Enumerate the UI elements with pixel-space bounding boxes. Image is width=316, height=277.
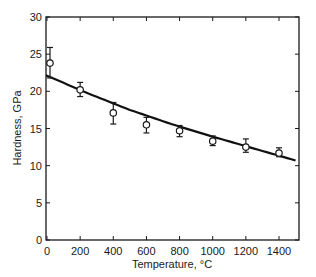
data-point: [47, 47, 53, 77]
data-point: [110, 102, 116, 124]
x-tick-label: 400: [104, 245, 122, 257]
y-tick-label: 15: [30, 123, 42, 135]
y-tick-label: 0: [36, 234, 42, 246]
x-tick-label: 800: [170, 245, 188, 257]
data-point: [143, 117, 149, 133]
data-point: [243, 139, 249, 152]
x-tick-label: 600: [137, 245, 155, 257]
open-circle-marker: [110, 110, 116, 116]
x-tick-label: 200: [71, 245, 89, 257]
x-tick-label: 1400: [267, 245, 291, 257]
y-tick-label: 10: [30, 160, 42, 172]
hardness-vs-temperature-chart: 0200400600800100012001400 051015202530 T…: [0, 0, 316, 277]
y-tick-label: 5: [36, 197, 42, 209]
x-tick-label: 0: [44, 245, 50, 257]
data-point: [77, 82, 83, 96]
open-circle-marker: [243, 144, 249, 150]
y-axis-label: Hardness, GPa: [11, 90, 23, 166]
x-axis-label: Temperature, °C: [132, 258, 212, 270]
y-tick-label: 20: [30, 85, 42, 97]
y-axis-ticks: 051015202530: [30, 11, 299, 246]
open-circle-marker: [210, 138, 216, 144]
open-circle-marker: [47, 60, 53, 66]
plot-frame: [46, 17, 299, 240]
x-tick-label: 1000: [200, 245, 224, 257]
data-points: [47, 47, 282, 156]
open-circle-marker: [143, 122, 149, 128]
data-point: [276, 148, 282, 157]
x-axis-ticks: 0200400600800100012001400: [44, 17, 291, 257]
y-tick-label: 30: [30, 11, 42, 23]
axes-box: [46, 17, 299, 240]
open-circle-marker: [176, 128, 182, 134]
open-circle-marker: [276, 150, 282, 156]
y-tick-label: 25: [30, 48, 42, 60]
x-tick-label: 1200: [234, 245, 258, 257]
open-circle-marker: [77, 87, 83, 93]
